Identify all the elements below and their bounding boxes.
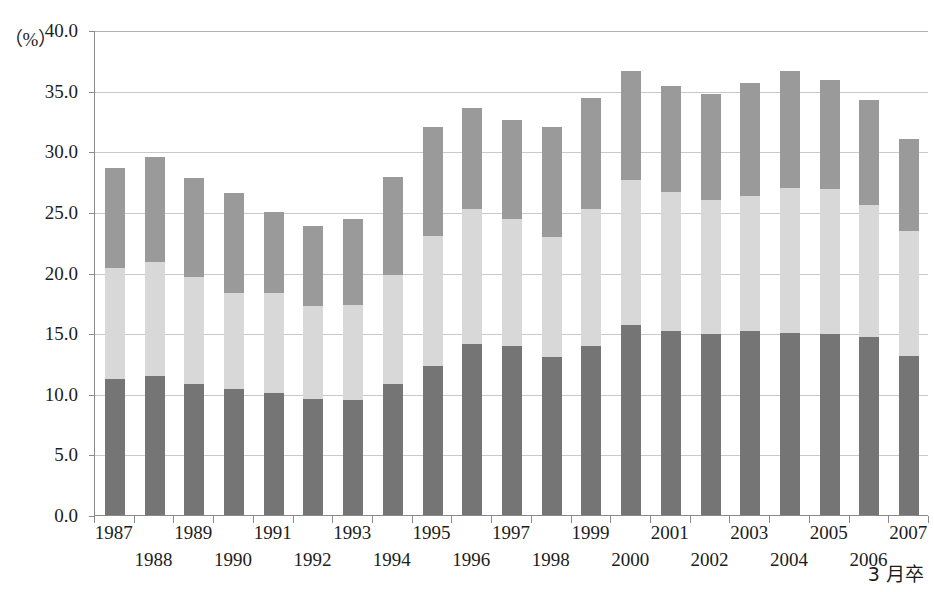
y-axis-tick-labels: 40.035.030.025.020.015.010.05.00.0	[0, 31, 86, 516]
bar-group[interactable]	[264, 212, 284, 515]
bar-group[interactable]	[184, 178, 204, 515]
x-axis-tick-label: 2001	[651, 522, 689, 544]
bar-group[interactable]	[701, 94, 721, 515]
bar-segment-middle	[264, 293, 284, 392]
bar-group[interactable]	[621, 71, 641, 515]
bar-group[interactable]	[502, 120, 522, 515]
bar-group[interactable]	[224, 193, 244, 516]
y-axis-tick-label: 5.0	[54, 444, 78, 466]
bar-group[interactable]	[780, 71, 800, 515]
x-axis-tick-label: 2000	[611, 549, 649, 571]
bar-segment-middle	[383, 275, 403, 384]
bar-group[interactable]	[303, 226, 323, 515]
bar-segment-middle	[581, 209, 601, 346]
bar-segment-bottom	[303, 399, 323, 515]
bar-group[interactable]	[859, 100, 879, 515]
bar-segment-top	[145, 157, 165, 261]
bar-segment-bottom	[899, 356, 919, 515]
bar-segment-middle	[502, 219, 522, 346]
bar-segment-middle	[621, 180, 641, 324]
bar-segment-bottom	[780, 333, 800, 515]
bar-segment-bottom	[820, 334, 840, 515]
bar-group[interactable]	[343, 219, 363, 515]
bar-segment-bottom	[859, 337, 879, 515]
bar-segment-bottom	[621, 325, 641, 515]
bar-group[interactable]	[105, 168, 125, 515]
y-axis-tick-label: 30.0	[45, 141, 78, 163]
bar-segment-bottom	[661, 331, 681, 515]
bar-segment-middle	[542, 237, 562, 357]
x-axis-tick-label: 2003	[730, 522, 768, 544]
x-axis-tick-label: 1989	[174, 522, 212, 544]
x-axis-tick-label: 1994	[373, 549, 411, 571]
bar-segment-middle	[343, 305, 363, 400]
x-axis-tick-label: 1999	[571, 522, 609, 544]
x-axis-tick-label: 2005	[810, 522, 848, 544]
x-axis-tick-label: 1995	[413, 522, 451, 544]
x-axis-tick-label: 1998	[532, 549, 570, 571]
bar-group[interactable]	[820, 80, 840, 515]
bar-series-container	[95, 31, 928, 515]
bar-segment-top	[264, 212, 284, 293]
x-axis-tick-label: 2002	[691, 549, 729, 571]
bar-segment-bottom	[224, 389, 244, 515]
bar-segment-top	[621, 71, 641, 180]
x-axis-tick-label: 1993	[333, 522, 371, 544]
bar-segment-bottom	[581, 346, 601, 515]
bar-segment-top	[780, 71, 800, 187]
y-axis-tick-label: 0.0	[54, 505, 78, 527]
bar-segment-top	[303, 226, 323, 306]
bar-segment-bottom	[462, 344, 482, 515]
y-axis-tick-label: 20.0	[45, 263, 78, 285]
bar-group[interactable]	[145, 157, 165, 515]
bar-segment-top	[383, 177, 403, 275]
bar-group[interactable]	[542, 127, 562, 515]
bar-segment-bottom	[701, 334, 721, 515]
bar-segment-bottom	[383, 384, 403, 515]
bar-group[interactable]	[383, 177, 403, 515]
bar-segment-middle	[184, 277, 204, 384]
bar-segment-middle	[740, 196, 760, 331]
x-axis-tick-label: 1991	[254, 522, 292, 544]
bar-segment-top	[859, 100, 879, 204]
bar-group[interactable]	[462, 108, 482, 515]
y-axis-tick-label: 35.0	[45, 81, 78, 103]
bar-group[interactable]	[581, 98, 601, 515]
x-axis-tick-label: 1988	[135, 549, 173, 571]
bar-segment-top	[105, 168, 125, 267]
bar-segment-middle	[105, 268, 125, 380]
bar-segment-bottom	[184, 384, 204, 515]
x-axis-tick-label: 1990	[214, 549, 252, 571]
y-axis-tick-label: 40.0	[45, 20, 78, 42]
bar-segment-bottom	[740, 331, 760, 515]
bar-segment-middle	[423, 236, 443, 366]
bar-group[interactable]	[661, 86, 681, 515]
bar-segment-middle	[224, 293, 244, 389]
bar-segment-bottom	[343, 400, 363, 515]
x-axis-tick-label: 1996	[452, 549, 490, 571]
bar-segment-middle	[661, 192, 681, 330]
x-axis-tick-label: 1992	[293, 549, 331, 571]
bar-segment-top	[899, 139, 919, 231]
bar-segment-bottom	[145, 376, 165, 515]
bar-segment-top	[820, 80, 840, 189]
bar-segment-top	[184, 178, 204, 277]
bar-segment-top	[502, 120, 522, 219]
bar-segment-bottom	[423, 366, 443, 515]
bar-segment-top	[581, 98, 601, 210]
bar-segment-middle	[859, 205, 879, 337]
bar-segment-middle	[303, 306, 323, 398]
bar-segment-middle	[701, 200, 721, 335]
bar-segment-top	[343, 219, 363, 305]
bar-group[interactable]	[423, 127, 443, 515]
bar-group[interactable]	[899, 139, 919, 515]
y-axis-tick-label: 25.0	[45, 202, 78, 224]
bar-segment-middle	[899, 231, 919, 356]
bar-segment-middle	[780, 188, 800, 334]
y-axis-tick-label: 15.0	[45, 323, 78, 345]
bar-group[interactable]	[740, 83, 760, 515]
bar-segment-top	[542, 127, 562, 237]
x-axis-tick-mark	[928, 516, 929, 523]
x-axis-tick-label: 1997	[492, 522, 530, 544]
bar-segment-bottom	[105, 379, 125, 515]
